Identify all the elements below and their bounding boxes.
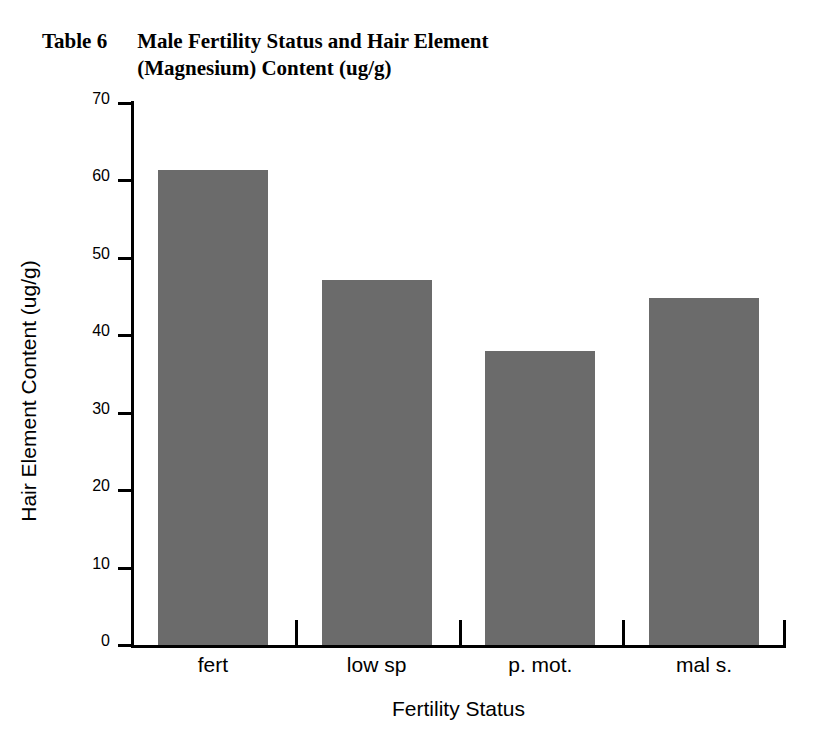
bar-low-sp (322, 280, 432, 645)
y-axis-tick-label-50: 50 (8, 245, 110, 263)
y-axis-tick-label-60: 60 (8, 167, 110, 185)
bar-fert (158, 170, 268, 645)
bar-chart: Hair Element Content (ug/g) 010203040506… (0, 0, 816, 740)
x-axis-label-low-sp: low sp (295, 652, 459, 678)
y-axis-tick-label-0: 0 (8, 632, 110, 650)
bar-mal-s (649, 298, 759, 645)
y-axis-tick-label-30: 30 (8, 400, 110, 418)
x-axis-label-fert: fert (131, 652, 295, 678)
bar-p-mot (485, 351, 595, 645)
x-axis-tick-3 (622, 620, 625, 648)
x-axis-label-mal-s: mal s. (622, 652, 786, 678)
x-axis-tick-0 (131, 620, 134, 648)
x-axis-tick-1 (295, 620, 298, 648)
x-axis-label-p-mot: p. mot. (459, 652, 623, 678)
x-axis-tick-2 (459, 620, 462, 648)
y-axis-line (131, 101, 134, 648)
x-axis-tick-4 (783, 620, 786, 648)
y-axis-tick-label-10: 10 (8, 555, 110, 573)
y-axis-tick-label-70: 70 (8, 90, 110, 108)
x-axis-label: Fertility Status (131, 697, 786, 721)
y-axis-tick-label-20: 20 (8, 477, 110, 495)
y-axis-tick-label-40: 40 (8, 322, 110, 340)
